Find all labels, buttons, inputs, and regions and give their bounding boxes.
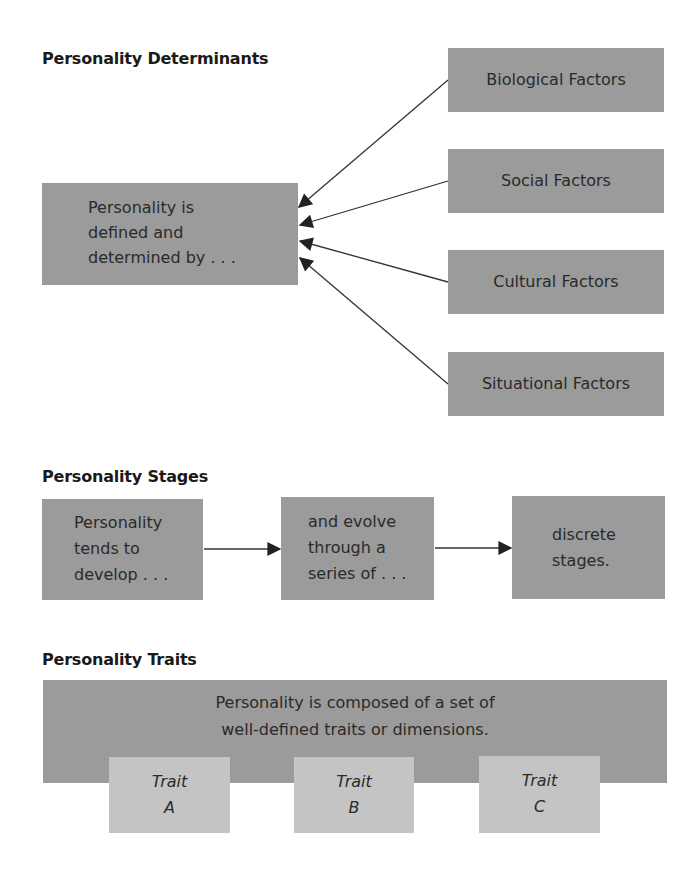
- trait-c-box: Trait C: [479, 756, 600, 833]
- stage-box-3: discrete stages.: [512, 496, 665, 599]
- trait-letter: B: [294, 795, 414, 821]
- stage-line: Personality: [74, 510, 203, 536]
- factor-cultural: Cultural Factors: [448, 250, 664, 314]
- stage-line: through a: [308, 535, 434, 561]
- trait-label: Trait: [294, 769, 414, 795]
- trait-letter: C: [479, 794, 600, 820]
- stage-line: and evolve: [308, 509, 434, 535]
- trait-letter: A: [109, 795, 230, 821]
- traits-main-line: Personality is composed of a set of: [43, 689, 667, 716]
- factor-biological: Biological Factors: [448, 48, 664, 112]
- trait-label: Trait: [109, 769, 230, 795]
- stage-box-2: and evolve through a series of . . .: [281, 497, 434, 600]
- stage-box-1: Personality tends to develop . . .: [42, 499, 203, 600]
- factor-label: Biological Factors: [486, 67, 626, 93]
- heading-determinants: Personality Determinants: [42, 49, 268, 68]
- arrow-cultural: [300, 241, 448, 282]
- heading-stages: Personality Stages: [42, 467, 208, 486]
- trait-a-box: Trait A: [109, 757, 230, 833]
- center-line-3: determined by . . .: [88, 245, 298, 270]
- trait-b-box: Trait B: [294, 757, 414, 833]
- factor-label: Situational Factors: [482, 371, 630, 397]
- factor-situational: Situational Factors: [448, 352, 664, 416]
- stage-line: develop . . .: [74, 562, 203, 588]
- center-line-1: Personality is: [88, 195, 298, 220]
- factor-label: Social Factors: [501, 168, 611, 194]
- trait-label: Trait: [479, 768, 600, 794]
- heading-traits: Personality Traits: [42, 650, 197, 669]
- factor-social: Social Factors: [448, 149, 664, 213]
- stage-line: discrete: [552, 522, 665, 548]
- stage-line: series of . . .: [308, 561, 434, 587]
- center-line-2: defined and: [88, 220, 298, 245]
- stage-line: tends to: [74, 536, 203, 562]
- center-definition-box: Personality is defined and determined by…: [42, 183, 298, 285]
- traits-main-line: well-defined traits or dimensions.: [43, 716, 667, 743]
- arrow-situational: [300, 258, 448, 384]
- stage-line: stages.: [552, 548, 665, 574]
- factor-label: Cultural Factors: [493, 269, 618, 295]
